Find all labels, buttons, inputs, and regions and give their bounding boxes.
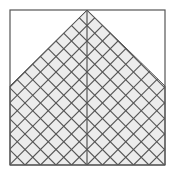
hatched-pentagon-diagram xyxy=(0,0,174,176)
